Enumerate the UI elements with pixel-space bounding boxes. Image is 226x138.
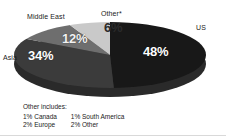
- pie-value-other: 6%: [104, 20, 122, 35]
- footnote-row: 2% Europe 2% Other: [23, 121, 131, 130]
- footnote-europe: 2% Europe: [23, 121, 69, 130]
- footnote-heading: Other includes:: [23, 103, 131, 112]
- footnote-other-includes: Other includes: 1% Canada 1% South Ameri…: [23, 103, 131, 130]
- pie-label-asia: Asia: [3, 54, 17, 61]
- bottom-divider: [0, 135, 226, 136]
- footnote-other: 2% Other: [71, 121, 131, 130]
- pie-value-us: 48%: [143, 44, 168, 59]
- pie-value-middle-east: 12%: [62, 31, 87, 46]
- footnote-row: 1% Canada 1% South America: [23, 113, 131, 122]
- pie-label-us: US: [196, 24, 206, 31]
- footnote-south-america: 1% South America: [71, 113, 131, 122]
- footnote-canada: 1% Canada: [23, 113, 69, 122]
- pie-label-middle-east: Middle East: [27, 13, 65, 20]
- pie-label-other: Other*: [101, 10, 122, 17]
- pie-value-asia: 34%: [28, 48, 53, 63]
